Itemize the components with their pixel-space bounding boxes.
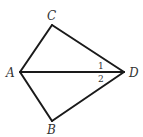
geometry-diagram: C A D B 1 2 bbox=[0, 0, 143, 137]
segment-BD bbox=[52, 72, 124, 121]
segment-CD bbox=[52, 25, 124, 72]
vertex-label-B: B bbox=[46, 123, 56, 137]
angle-label-2: 2 bbox=[98, 74, 104, 84]
vertex-label-C: C bbox=[47, 9, 56, 23]
vertex-label-D: D bbox=[128, 66, 139, 80]
vertex-label-A: A bbox=[5, 66, 15, 80]
angle-label-1: 1 bbox=[98, 61, 104, 71]
segment-AB bbox=[20, 72, 52, 121]
segment-AC bbox=[20, 25, 52, 72]
